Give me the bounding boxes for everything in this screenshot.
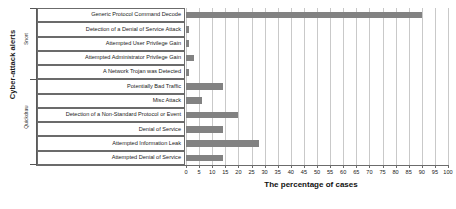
group-label-column: Snort Quickdraw xyxy=(18,8,32,164)
bar xyxy=(186,155,223,162)
category-label-text: Denial of Service xyxy=(139,127,181,133)
category-label: Generic Protocol Command Decode xyxy=(37,8,185,22)
x-tick xyxy=(225,165,226,168)
category-label: Potentially Bad Traffic xyxy=(37,79,185,93)
category-label-text: Attempted Information Leak xyxy=(112,141,181,147)
gridline-50 xyxy=(317,8,318,165)
x-tick xyxy=(304,165,305,168)
x-tick xyxy=(356,165,357,168)
gridline-65 xyxy=(356,8,357,165)
bar xyxy=(186,126,223,133)
category-label-text: Attempted Denial of Service xyxy=(112,155,181,161)
gridline-95 xyxy=(435,8,436,165)
bar xyxy=(186,69,189,76)
gridline-75 xyxy=(383,8,384,165)
bars-container xyxy=(186,8,448,165)
gridline-80 xyxy=(396,8,397,165)
x-tick-label: 100 xyxy=(436,169,456,175)
x-tick xyxy=(186,165,187,168)
gridline-85 xyxy=(409,8,410,165)
category-label: Attempted User Privilege Gain xyxy=(37,37,185,51)
gridline-40 xyxy=(291,8,292,165)
bar xyxy=(186,40,189,47)
bar xyxy=(186,55,194,62)
plot-area: Generic Protocol Command DecodeDetection… xyxy=(36,8,448,165)
x-tick xyxy=(278,165,279,168)
category-label: A Network Trojan was Detected xyxy=(37,65,185,79)
gridline-55 xyxy=(330,8,331,165)
x-tick xyxy=(212,165,213,168)
y-axis-title: Cyber-attack alerts xyxy=(8,29,17,101)
category-label-text: Detection of a Denial of Service Attack xyxy=(86,27,181,33)
category-label-text: Detection of a Non-Standard Protocol or … xyxy=(66,112,181,118)
gridline-70 xyxy=(369,8,370,165)
gridline-30 xyxy=(265,8,266,165)
category-label: Misc Attack xyxy=(37,94,185,108)
x-tick xyxy=(252,165,253,168)
category-label: Attempted Denial of Service xyxy=(37,151,185,165)
category-label: Denial of Service xyxy=(37,122,185,136)
gridline-90 xyxy=(422,8,423,165)
category-label: Detection of a Denial of Service Attack xyxy=(37,22,185,36)
x-axis-title: The percentage of cases xyxy=(186,180,436,189)
x-tick xyxy=(383,165,384,168)
x-tick xyxy=(291,165,292,168)
x-tick xyxy=(369,165,370,168)
category-label-text: Attempted User Privilege Gain xyxy=(106,41,181,47)
x-tick xyxy=(396,165,397,168)
category-label-text: Attempted Administrator Privilege Gain xyxy=(85,55,181,61)
bar xyxy=(186,12,422,19)
group-label-quickdraw: Quickdraw xyxy=(23,87,29,147)
bar xyxy=(186,26,189,33)
x-tick xyxy=(422,165,423,168)
x-tick xyxy=(238,165,239,168)
x-tick xyxy=(435,165,436,168)
gridline-45 xyxy=(304,8,305,165)
bar xyxy=(186,112,238,119)
x-tick xyxy=(409,165,410,168)
category-label-text: Misc Attack xyxy=(153,98,181,104)
x-tick xyxy=(265,165,266,168)
x-tick xyxy=(199,165,200,168)
value-axis-line xyxy=(36,165,448,166)
bar xyxy=(186,83,223,90)
gridline-35 xyxy=(278,8,279,165)
category-label-text: Generic Protocol Command Decode xyxy=(91,12,181,18)
cyber-attack-alerts-bar-chart: Cyber-attack alerts Snort Quickdraw Gene… xyxy=(0,0,456,209)
group-label-snort: Snort xyxy=(23,9,29,69)
category-label-text: A Network Trojan was Detected xyxy=(103,69,181,75)
category-label: Attempted Administrator Privilege Gain xyxy=(37,51,185,65)
bar xyxy=(186,97,202,104)
x-tick xyxy=(317,165,318,168)
category-label-text: Potentially Bad Traffic xyxy=(127,84,181,90)
x-tick xyxy=(343,165,344,168)
x-tick xyxy=(448,165,449,168)
category-label: Attempted Information Leak xyxy=(37,136,185,150)
gridline-100 xyxy=(448,8,449,165)
gridline-60 xyxy=(343,8,344,165)
bar xyxy=(186,140,259,147)
x-tick xyxy=(330,165,331,168)
category-label: Detection of a Non-Standard Protocol or … xyxy=(37,108,185,122)
